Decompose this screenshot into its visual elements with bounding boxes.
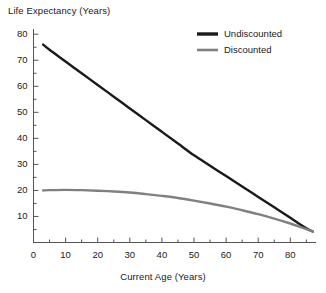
x-tick-label: 70 [246, 249, 270, 260]
x-axis-ticks [34, 238, 307, 243]
y-axis-ticks [34, 34, 39, 242]
series-line [43, 45, 313, 232]
x-tick-label: 60 [214, 249, 238, 260]
series-line [43, 190, 313, 232]
x-tick-label: 30 [118, 249, 142, 260]
y-tick-label: 60 [8, 80, 28, 91]
life-expectancy-chart: Life Expectancy (Years) 1020304050607080… [0, 0, 326, 293]
y-tick-label: 20 [8, 184, 28, 195]
y-tick-label: 40 [8, 132, 28, 143]
x-tick-label: 10 [54, 249, 78, 260]
legend-label: Discounted [224, 44, 272, 55]
legend-swatches [197, 34, 218, 50]
x-tick-label: 20 [86, 249, 110, 260]
x-tick-label: 80 [278, 249, 302, 260]
y-tick-label: 80 [8, 28, 28, 39]
y-tick-label: 50 [8, 106, 28, 117]
x-axis-title: Current Age (Years) [0, 271, 326, 282]
x-tick-label: 0 [22, 249, 46, 260]
axis-lines [34, 29, 317, 243]
y-tick-label: 70 [8, 54, 28, 65]
y-tick-label: 30 [8, 158, 28, 169]
x-tick-label: 50 [182, 249, 206, 260]
series-lines [43, 45, 313, 232]
y-tick-label: 10 [8, 210, 28, 221]
legend-label: Undiscounted [224, 28, 282, 39]
x-tick-label: 40 [150, 249, 174, 260]
